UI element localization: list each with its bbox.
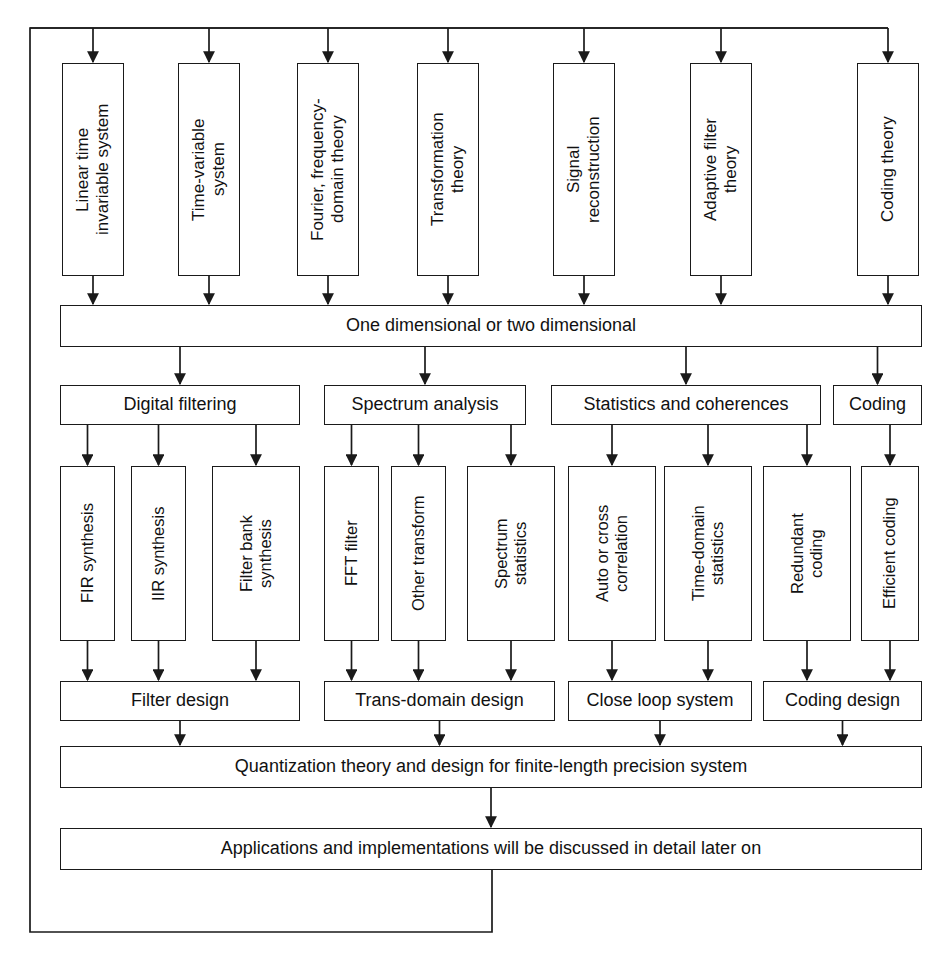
node-label: Signal reconstruction xyxy=(564,116,604,223)
node-spectrum-statistics[interactable]: Spectrum statistics xyxy=(467,466,555,641)
node-label: Time-domain statistics xyxy=(689,506,728,602)
node-label: Close loop system xyxy=(586,690,733,711)
node-label: Statistics and coherences xyxy=(583,394,788,415)
node-label: Adaptive filter theory xyxy=(701,118,741,221)
node-label: Spectrum analysis xyxy=(351,394,498,415)
node-linear-time-invariable-system[interactable]: Linear time invariable system xyxy=(62,63,124,276)
node-label: Coding design xyxy=(785,690,900,711)
node-label: Filter design xyxy=(131,690,229,711)
node-quantization-theory[interactable]: Quantization theory and design for finit… xyxy=(60,746,922,788)
node-one-or-two-dimensional[interactable]: One dimensional or two dimensional xyxy=(60,305,922,347)
node-auto-or-cross-correlation[interactable]: Auto or cross correlation xyxy=(568,466,656,641)
node-label: Coding theory xyxy=(878,117,898,223)
flowchart-canvas: Linear time invariable system Time-varia… xyxy=(0,0,951,958)
node-efficient-coding[interactable]: Efficient coding xyxy=(861,466,919,641)
node-label: Quantization theory and design for finit… xyxy=(235,756,747,777)
node-label: Auto or cross correlation xyxy=(593,505,632,602)
node-redundant-coding[interactable]: Redundant coding xyxy=(763,466,851,641)
node-digital-filtering[interactable]: Digital filtering xyxy=(60,385,300,425)
node-coding-theory[interactable]: Coding theory xyxy=(857,63,919,276)
node-coding-design[interactable]: Coding design xyxy=(763,681,922,721)
node-fourier-frequency-domain-theory[interactable]: Fourier, frequency- domain theory xyxy=(297,63,359,276)
node-close-loop-system[interactable]: Close loop system xyxy=(568,681,752,721)
node-applications-and-implementations[interactable]: Applications and implementations will be… xyxy=(60,828,922,870)
node-label: Efficient coding xyxy=(880,498,899,610)
node-fir-synthesis[interactable]: FIR synthesis xyxy=(60,466,115,641)
node-trans-domain-design[interactable]: Trans-domain design xyxy=(324,681,555,721)
node-label: Fourier, frequency- domain theory xyxy=(308,98,348,241)
node-coding[interactable]: Coding xyxy=(833,385,922,425)
node-other-transform[interactable]: Other transform xyxy=(391,466,446,641)
node-filter-bank-synthesis[interactable]: Filter bank synthesis xyxy=(212,466,300,641)
node-label: Filter bank synthesis xyxy=(237,515,276,592)
node-statistics-and-coherences[interactable]: Statistics and coherences xyxy=(551,385,821,425)
node-label: Redundant coding xyxy=(788,513,827,594)
node-label: Trans-domain design xyxy=(355,690,523,711)
node-label: IIR synthesis xyxy=(149,506,168,600)
node-label: Linear time invariable system xyxy=(73,104,113,235)
node-label: FFT filter xyxy=(342,521,361,587)
node-label: FIR synthesis xyxy=(78,504,97,604)
node-fft-filter[interactable]: FFT filter xyxy=(324,466,379,641)
node-label: Digital filtering xyxy=(123,394,236,415)
node-time-domain-statistics[interactable]: Time-domain statistics xyxy=(664,466,752,641)
node-label: Coding xyxy=(849,394,906,415)
node-label: Other transform xyxy=(409,496,428,612)
node-adaptive-filter-theory[interactable]: Adaptive filter theory xyxy=(690,63,752,276)
node-label: Time-variable system xyxy=(189,118,229,220)
node-spectrum-analysis[interactable]: Spectrum analysis xyxy=(324,385,526,425)
node-label: Transformation theory xyxy=(428,113,468,227)
node-iir-synthesis[interactable]: IIR synthesis xyxy=(131,466,186,641)
node-label: One dimensional or two dimensional xyxy=(346,315,636,336)
node-time-variable-system[interactable]: Time-variable system xyxy=(178,63,240,276)
node-label: Spectrum statistics xyxy=(492,518,531,589)
node-label: Applications and implementations will be… xyxy=(221,838,761,859)
node-signal-reconstruction[interactable]: Signal reconstruction xyxy=(553,63,615,276)
node-transformation-theory[interactable]: Transformation theory xyxy=(417,63,479,276)
node-filter-design[interactable]: Filter design xyxy=(60,681,300,721)
